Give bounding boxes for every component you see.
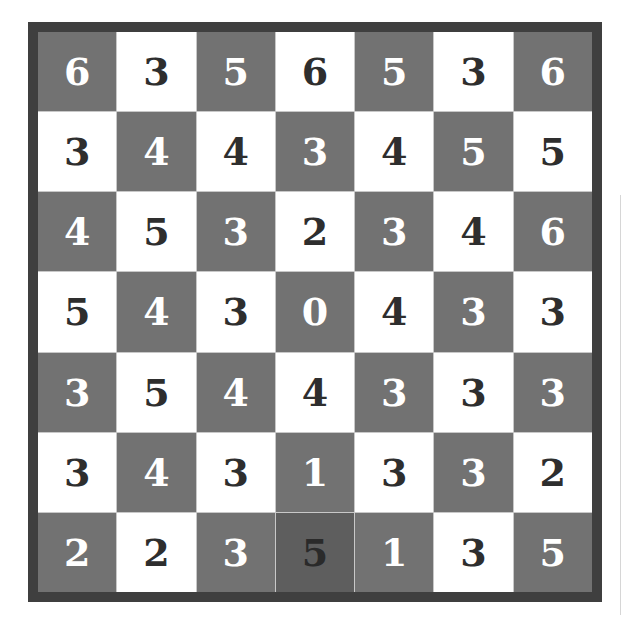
game-board-grid: 6 3 5 6 5 3 6 3 4 4 3 4 5 5 4 5 3 2 3 4 … bbox=[38, 32, 592, 592]
board-cell[interactable]: 3 bbox=[197, 272, 275, 351]
board-cell[interactable]: 3 bbox=[514, 272, 592, 351]
board-cell[interactable]: 5 bbox=[514, 112, 592, 191]
board-cell[interactable]: 6 bbox=[514, 192, 592, 271]
board-cell[interactable]: 3 bbox=[276, 112, 354, 191]
board-cell[interactable]: 5 bbox=[117, 192, 195, 271]
board-cell[interactable]: 5 bbox=[355, 32, 433, 111]
board-cell[interactable]: 2 bbox=[38, 513, 116, 592]
board-cell[interactable]: 4 bbox=[117, 272, 195, 351]
board-cell[interactable]: 1 bbox=[355, 513, 433, 592]
board-cell[interactable]: 4 bbox=[355, 112, 433, 191]
board-cell[interactable]: 5 bbox=[514, 513, 592, 592]
board-cell[interactable]: 1 bbox=[276, 433, 354, 512]
board-cell[interactable]: 3 bbox=[514, 353, 592, 432]
board-cell-highlighted[interactable]: 5 bbox=[276, 513, 354, 592]
board-cell[interactable]: 5 bbox=[117, 353, 195, 432]
board-cell[interactable]: 3 bbox=[117, 32, 195, 111]
board-cell[interactable]: 2 bbox=[514, 433, 592, 512]
board-cell[interactable]: 3 bbox=[197, 433, 275, 512]
board-cell[interactable]: 3 bbox=[434, 272, 512, 351]
board-cell[interactable]: 4 bbox=[355, 272, 433, 351]
board-cell[interactable]: 3 bbox=[38, 353, 116, 432]
board-cell[interactable]: 4 bbox=[117, 433, 195, 512]
board-cell[interactable]: 3 bbox=[434, 32, 512, 111]
board-cell[interactable]: 6 bbox=[276, 32, 354, 111]
board-cell[interactable]: 4 bbox=[434, 192, 512, 271]
board-cell[interactable]: 3 bbox=[197, 513, 275, 592]
board-cell[interactable]: 3 bbox=[434, 433, 512, 512]
board-cell[interactable]: 3 bbox=[355, 353, 433, 432]
board-cell[interactable]: 6 bbox=[38, 32, 116, 111]
board-cell[interactable]: 3 bbox=[434, 513, 512, 592]
board-cell[interactable]: 0 bbox=[276, 272, 354, 351]
board-cell[interactable]: 4 bbox=[38, 192, 116, 271]
board-cell[interactable]: 2 bbox=[117, 513, 195, 592]
page-edge-divider bbox=[620, 195, 621, 615]
board-cell[interactable]: 3 bbox=[38, 433, 116, 512]
board-cell[interactable]: 5 bbox=[38, 272, 116, 351]
board-cell[interactable]: 3 bbox=[355, 192, 433, 271]
board-cell[interactable]: 3 bbox=[434, 353, 512, 432]
board-cell[interactable]: 4 bbox=[117, 112, 195, 191]
board-cell[interactable]: 4 bbox=[197, 353, 275, 432]
board-cell[interactable]: 3 bbox=[38, 112, 116, 191]
board-cell[interactable]: 5 bbox=[197, 32, 275, 111]
board-cell[interactable]: 3 bbox=[355, 433, 433, 512]
board-cell[interactable]: 6 bbox=[514, 32, 592, 111]
board-cell[interactable]: 4 bbox=[197, 112, 275, 191]
board-cell[interactable]: 5 bbox=[434, 112, 512, 191]
board-cell[interactable]: 2 bbox=[276, 192, 354, 271]
board-cell[interactable]: 3 bbox=[197, 192, 275, 271]
board-cell[interactable]: 4 bbox=[276, 353, 354, 432]
game-board-frame: 6 3 5 6 5 3 6 3 4 4 3 4 5 5 4 5 3 2 3 4 … bbox=[28, 22, 602, 602]
